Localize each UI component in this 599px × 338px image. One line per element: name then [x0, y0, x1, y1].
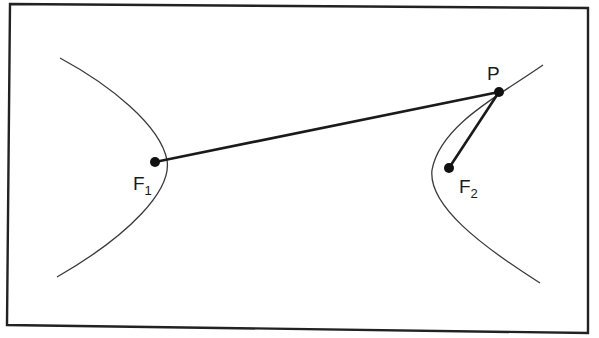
- point-p: [494, 87, 504, 97]
- segment-f1-p: [155, 92, 499, 162]
- diagram-frame: [7, 4, 588, 333]
- hyperbola-right-branch: [432, 65, 543, 283]
- label-p: P: [487, 63, 500, 84]
- label-f2: F2: [459, 176, 478, 201]
- point-f2: [444, 163, 454, 173]
- hyperbola-left-branch: [57, 58, 167, 277]
- hyperbola-diagram: F1 F2 P: [0, 0, 599, 338]
- segment-f2-p: [449, 92, 499, 168]
- point-f1: [150, 157, 160, 167]
- label-f1: F1: [133, 173, 152, 198]
